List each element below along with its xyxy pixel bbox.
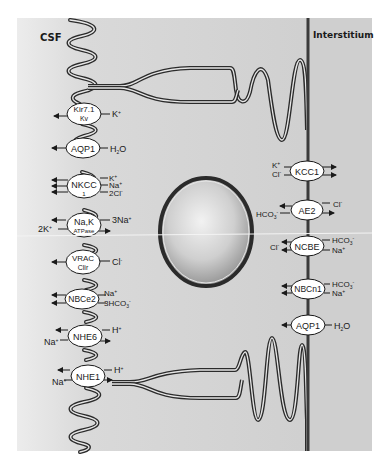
svg-text:AQP1: AQP1: [71, 144, 95, 154]
svg-text:Clir: Clir: [78, 264, 89, 271]
csf-label: CSF: [40, 32, 62, 43]
interstitium-label: Interstitium: [313, 30, 374, 40]
svg-text:KCC1: KCC1: [295, 167, 319, 177]
choroid-plexus-transport-diagram: CSF Interstitium Kir7.1 Kv K+ A: [0, 0, 387, 464]
svg-text:Kv: Kv: [80, 115, 89, 122]
svg-text:VRAC: VRAC: [72, 254, 94, 263]
svg-text:NCBE: NCBE: [294, 242, 319, 252]
svg-text:NKCC: NKCC: [71, 180, 97, 190]
svg-text:AE2: AE2: [298, 206, 315, 216]
svg-text:2Cl-: 2Cl-: [109, 188, 123, 198]
svg-text:AQP1: AQP1: [296, 321, 320, 331]
svg-text:Na,K: Na,K: [74, 217, 94, 227]
svg-text:NHE1: NHE1: [76, 372, 100, 382]
interstitium-region: [309, 18, 372, 451]
svg-text:NHE6: NHE6: [73, 332, 97, 342]
svg-text:Kir7.1: Kir7.1: [74, 105, 95, 114]
nucleus: [160, 178, 252, 286]
svg-text:ATPase: ATPase: [74, 228, 96, 234]
svg-text:NBCe2: NBCe2: [68, 294, 96, 304]
svg-text:NBCn1: NBCn1: [294, 284, 322, 294]
